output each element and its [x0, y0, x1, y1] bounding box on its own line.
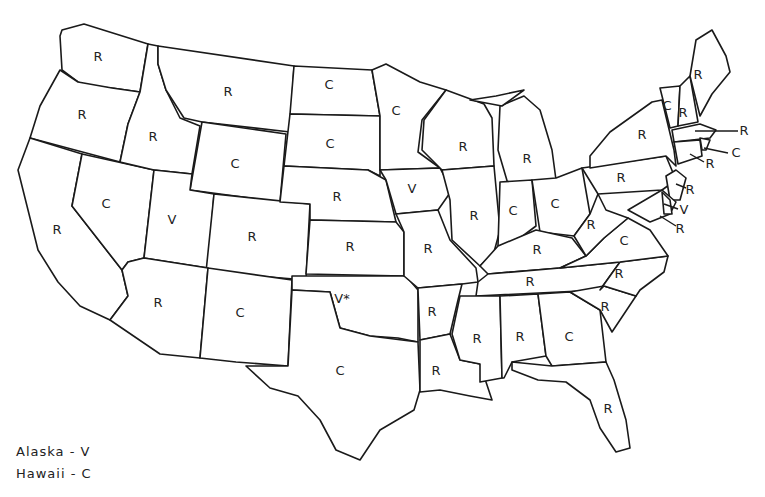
state-label-new-mexico: C: [235, 306, 244, 319]
state-label-mississippi: R: [472, 332, 481, 345]
state-label-wyoming: C: [230, 157, 239, 170]
us-state-map: [0, 0, 765, 497]
state-label-oklahoma: V*: [334, 292, 349, 305]
state-label-indiana: C: [508, 204, 517, 217]
state-label-west-virginia: R: [586, 218, 595, 231]
state-label-florida: R: [603, 402, 612, 415]
state-label-texas: C: [335, 364, 344, 377]
legend-hawaii: Hawaii - C: [16, 466, 92, 481]
state-label-north-dakota: C: [324, 78, 333, 91]
state-label-maine: R: [693, 68, 702, 81]
state-label-ohio: C: [550, 197, 559, 210]
state-label-california: R: [52, 223, 61, 236]
state-label-new-hampshire: R: [678, 106, 687, 119]
state-label-wisconsin: R: [458, 140, 467, 153]
state-label-south-dakota: C: [325, 137, 334, 150]
state-label-connecticut: R: [705, 157, 714, 170]
state-label-rhode-island: C: [731, 146, 740, 159]
state-label-georgia: C: [564, 330, 573, 343]
state-label-missouri: R: [423, 242, 432, 255]
state-label-delaware: V: [680, 203, 689, 216]
state-label-nevada: C: [101, 197, 110, 210]
state-label-south-carolina: R: [600, 300, 609, 313]
state-label-michigan: R: [522, 152, 531, 165]
state-label-kentucky: R: [532, 243, 541, 256]
state-label-utah: V: [168, 213, 177, 226]
state-label-vermont: C: [662, 99, 671, 112]
state-label-massachusetts: R: [739, 124, 748, 137]
state-label-oregon: R: [77, 108, 86, 121]
state-label-tennessee: R: [525, 275, 534, 288]
state-label-minnesota: C: [391, 104, 400, 117]
state-label-iowa: V: [408, 182, 417, 195]
state-label-montana: R: [223, 85, 232, 98]
state-label-maryland: R: [675, 222, 684, 235]
state-label-idaho: R: [148, 130, 157, 143]
state-label-virginia: C: [619, 234, 628, 247]
state-label-arizona: R: [153, 296, 162, 309]
state-label-new-jersey: R: [685, 183, 694, 196]
state-label-illinois: R: [469, 209, 478, 222]
state-label-pennsylvania: R: [616, 171, 625, 184]
state-label-north-carolina: R: [614, 267, 623, 280]
state-label-louisiana: R: [431, 364, 440, 377]
state-label-alabama: R: [515, 330, 524, 343]
state-label-colorado: R: [247, 230, 256, 243]
legend-alaska: Alaska - V: [16, 444, 90, 459]
state-label-nebraska: R: [332, 190, 341, 203]
state-label-arkansas: R: [427, 305, 436, 318]
state-label-washington: R: [93, 50, 102, 63]
state-label-kansas: R: [345, 240, 354, 253]
state-label-new-york: R: [637, 128, 646, 141]
